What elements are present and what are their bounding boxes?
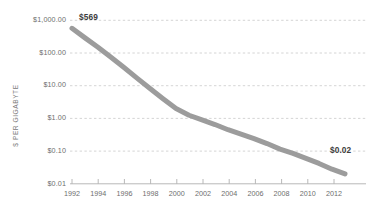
- ytick-row-10: $10.00: [14, 81, 66, 89]
- chart-container: $1,000.00 $100.00 $10.00 $1.00 $0.10 $0.…: [0, 0, 366, 211]
- xtick-label-2004: 2004: [216, 189, 242, 198]
- ytick-label-0-01: $0.01: [14, 180, 66, 188]
- x-axis-ticks: [72, 179, 334, 184]
- xtick-label-2002: 2002: [190, 189, 216, 198]
- ytick-row-1000: $1,000.00: [14, 16, 66, 24]
- ytick-row-1: $1.00: [14, 114, 66, 122]
- ytick-label-0-10: $0.10: [14, 147, 66, 155]
- gridlines: [70, 20, 366, 151]
- ytick-label-1: $1.00: [14, 114, 66, 122]
- xtick-label-2008: 2008: [269, 189, 295, 198]
- xtick-label-2006: 2006: [242, 189, 268, 198]
- annotation-end-value: $0.02: [330, 145, 351, 155]
- ytick-row-0-10: $0.10: [14, 147, 66, 155]
- annotation-start-value: $569: [79, 12, 98, 22]
- xtick-label-1996: 1996: [111, 189, 137, 198]
- ytick-row-0-01: $0.01: [14, 180, 66, 188]
- xtick-label-2000: 2000: [164, 189, 190, 198]
- xtick-label-1998: 1998: [138, 189, 164, 198]
- ytick-label-1000: $1,000.00: [14, 16, 66, 24]
- xtick-label-1994: 1994: [85, 189, 111, 198]
- xtick-label-2012: 2012: [321, 189, 347, 198]
- ytick-row-100: $100.00: [14, 49, 66, 57]
- ytick-label-10: $10.00: [14, 81, 66, 89]
- ytick-label-100: $100.00: [14, 49, 66, 57]
- y-axis-title: $ PER GIGABYTE: [12, 60, 19, 172]
- data-series-line: [72, 28, 345, 174]
- xtick-label-1992: 1992: [59, 189, 85, 198]
- xtick-label-2010: 2010: [295, 189, 321, 198]
